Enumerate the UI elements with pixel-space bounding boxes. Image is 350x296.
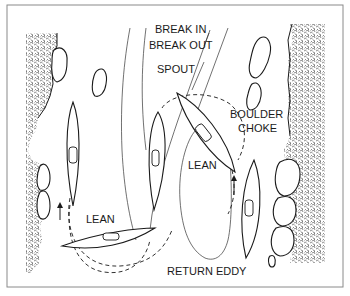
eddy-technique-diagram: BREAK IN BREAK OUT SPOUT BOULDER CHOKE L…	[0, 0, 350, 296]
label-spout: SPOUT	[157, 63, 195, 75]
right-bank	[268, 24, 325, 267]
right-bank-boulder-3	[271, 227, 294, 257]
label-boulder-choke-1: BOULDER	[230, 108, 283, 120]
kayak-1-left-upright	[67, 102, 79, 206]
label-lean-upper: LEAN	[188, 159, 217, 171]
boulder-left	[92, 69, 106, 96]
left-bank-boulder-upper	[52, 48, 67, 82]
left-bank	[26, 33, 67, 273]
left-bank-boulder-lower-2	[37, 191, 50, 219]
right-bank-boulder-2	[273, 197, 296, 227]
label-return-eddy: RETURN EDDY	[167, 265, 247, 277]
kayak-5-leaning-crossing	[62, 228, 155, 248]
label-break-in: BREAK IN	[155, 23, 206, 35]
label-break-out: BREAK OUT	[149, 39, 213, 51]
kayak-2-center-upright	[149, 112, 165, 210]
label-boulder-choke-2: CHOKE	[238, 122, 277, 134]
right-bank-pebble	[268, 255, 275, 267]
boulder-right-upper	[249, 37, 270, 78]
boulder-right-lower	[247, 83, 261, 110]
label-lean-lower: LEAN	[86, 213, 115, 225]
kayak-4-right-eddy	[242, 160, 260, 258]
left-bank-boulder-lower-1	[37, 164, 50, 190]
